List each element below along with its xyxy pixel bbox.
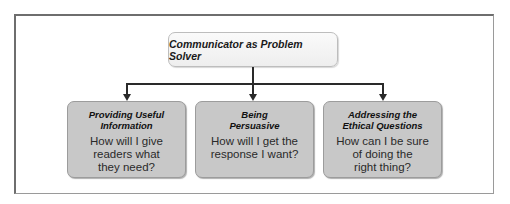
arrow-down-icon bbox=[249, 94, 257, 101]
child-node-title: Addressing the Ethical Questions bbox=[324, 109, 441, 131]
title-line: Persuasive bbox=[196, 120, 313, 131]
child-node-title: Being Persuasive bbox=[196, 109, 313, 131]
question-line: of doing the bbox=[330, 148, 435, 161]
question-line: How will I give bbox=[74, 135, 179, 148]
title-line: Ethical Questions bbox=[324, 120, 441, 131]
child-node-title: Providing Useful Information bbox=[68, 109, 185, 131]
question-line: How can I be sure bbox=[330, 135, 435, 148]
question-line: they need? bbox=[74, 161, 179, 174]
child-node-question: How can I be sure of doing the right thi… bbox=[324, 135, 441, 174]
question-line: response I want? bbox=[202, 148, 307, 161]
arrow-down-icon bbox=[379, 94, 387, 101]
title-line: Providing Useful bbox=[68, 109, 185, 120]
child-node-question: How will I give readers what they need? bbox=[68, 135, 185, 174]
child-node-useful-information: Providing Useful Information How will I … bbox=[67, 101, 186, 178]
connector-center bbox=[252, 83, 254, 94]
arrow-down-icon bbox=[123, 94, 131, 101]
question-line: How will I get the bbox=[202, 135, 307, 148]
connector-right bbox=[382, 83, 384, 94]
child-node-persuasive: Being Persuasive How will I get the resp… bbox=[195, 101, 314, 178]
question-line: readers what bbox=[74, 148, 179, 161]
child-node-question: How will I get the response I want? bbox=[196, 135, 313, 161]
title-line: Information bbox=[68, 120, 185, 131]
title-line: Being bbox=[196, 109, 313, 120]
title-line: Addressing the bbox=[324, 109, 441, 120]
connector-bar bbox=[126, 83, 384, 85]
root-node-label: Communicator as Problem Solver bbox=[169, 38, 337, 62]
root-node: Communicator as Problem Solver bbox=[168, 32, 338, 67]
child-node-ethical-questions: Addressing the Ethical Questions How can… bbox=[323, 101, 442, 178]
question-line: right thing? bbox=[330, 161, 435, 174]
connector-left bbox=[126, 83, 128, 94]
